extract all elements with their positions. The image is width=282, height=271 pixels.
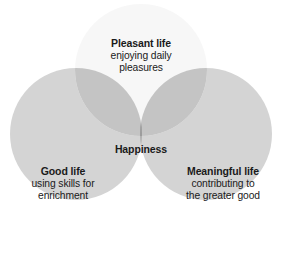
label-meaningful-life-desc-line1: contributing to (160, 178, 282, 190)
label-good-life-title: Good life (2, 166, 124, 178)
label-meaningful-life-desc-line2: the greater good (160, 190, 282, 202)
label-good-life: Good life using skills for enrichment (2, 166, 124, 201)
label-pleasant-life-desc-line2: pleasures (61, 62, 221, 74)
venn-diagram: Pleasant life enjoying daily pleasures G… (0, 0, 282, 271)
label-meaningful-life-title: Meaningful life (160, 166, 282, 178)
label-meaningful-life: Meaningful life contributing to the grea… (160, 166, 282, 201)
label-pleasant-life: Pleasant life enjoying daily pleasures (61, 38, 221, 73)
label-happiness-title: Happiness (98, 144, 184, 156)
label-good-life-desc-line1: using skills for (2, 178, 124, 190)
label-good-life-desc-line2: enrichment (2, 190, 124, 202)
label-happiness: Happiness (98, 144, 184, 156)
label-pleasant-life-title: Pleasant life (61, 38, 221, 50)
label-pleasant-life-desc-line1: enjoying daily (61, 50, 221, 62)
